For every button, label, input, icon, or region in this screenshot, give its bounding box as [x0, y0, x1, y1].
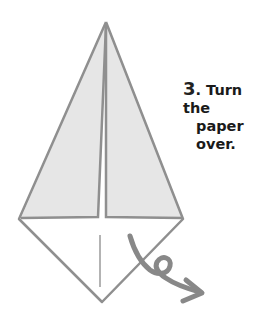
step-instruction: 3. Turn the paper over. [183, 80, 274, 153]
turn-over-arrow-icon [130, 236, 202, 301]
origami-diagram [0, 0, 274, 326]
step-text-line2: paper over. [183, 117, 274, 153]
step-number: 3 [183, 78, 196, 99]
